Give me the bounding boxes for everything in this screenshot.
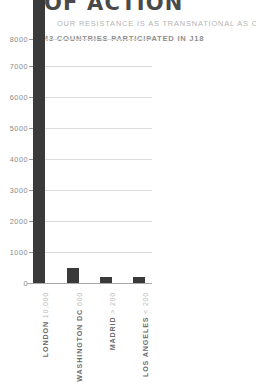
y-axis-tick-label: 1000 xyxy=(0,248,28,257)
x-axis-tick-name: WASHINGTON DC xyxy=(76,306,84,382)
bar-washington xyxy=(67,268,79,283)
x-axis-tick-name: LONDON xyxy=(42,318,50,357)
gridline xyxy=(33,159,152,160)
x-axis-tick-name: LOS ANGELES xyxy=(142,314,150,377)
bar-chart: 800070006000500040003000200010000 LONDON… xyxy=(0,0,256,389)
y-axis-tick-label: 6000 xyxy=(0,93,28,102)
y-axis-tick-label: 0 xyxy=(0,279,28,288)
bar-los-angeles xyxy=(133,277,145,283)
y-axis-tick-label: 3000 xyxy=(0,186,28,195)
bar-madrid xyxy=(100,277,112,283)
gridline xyxy=(33,66,152,67)
x-axis-tick-name: MADRID xyxy=(109,314,117,351)
x-axis-tick-value: < 200 xyxy=(142,292,150,314)
poster-canvas: OF ACTION OUR RESISTANCE IS AS TRANSNATI… xyxy=(0,0,256,389)
x-axis-tick-value: 10,000 xyxy=(42,292,50,318)
gridline xyxy=(33,97,152,98)
x-axis-tick-label: LOS ANGELES < 200 xyxy=(142,292,150,388)
y-axis-tick-label: 7000 xyxy=(0,62,28,71)
x-axis-tick-label: MADRID > 200 xyxy=(109,292,117,388)
gridline xyxy=(33,39,152,40)
gridline xyxy=(33,190,152,191)
y-axis-tick-label: 4000 xyxy=(0,155,28,164)
x-axis-tick-label: LONDON 10,000 xyxy=(42,292,50,388)
bar-london xyxy=(33,0,45,283)
gridline xyxy=(33,221,152,222)
x-axis-tick-value: 600 xyxy=(76,292,84,306)
x-axis-tick-label: WASHINGTON DC 600 xyxy=(76,292,84,388)
gridline xyxy=(33,128,152,129)
gridline xyxy=(33,252,152,253)
y-axis-tick-label: 8000 xyxy=(0,35,28,44)
chart-x-axis-line xyxy=(27,283,152,284)
x-axis-tick-value: > 200 xyxy=(109,292,117,314)
y-axis-tick-label: 5000 xyxy=(0,124,28,133)
y-axis-tick-label: 2000 xyxy=(0,217,28,226)
